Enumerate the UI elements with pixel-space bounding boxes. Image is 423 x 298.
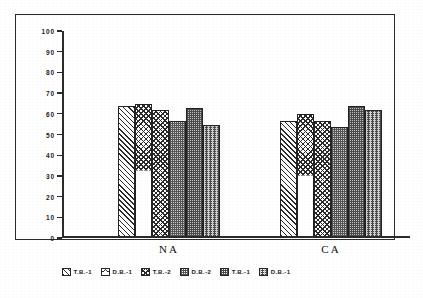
bar-ca-tb-1-0 bbox=[280, 121, 297, 237]
x-axis-line bbox=[62, 236, 410, 238]
y-tick-10 bbox=[57, 217, 62, 218]
legend-label-1: D.B.-1 bbox=[112, 269, 132, 275]
legend-label-5: D.B.-1 bbox=[271, 269, 291, 275]
legend-swatch-4 bbox=[220, 268, 229, 276]
bar-na-tb-2-2 bbox=[152, 110, 169, 236]
legend-swatch-2 bbox=[141, 268, 150, 276]
legend-item-3: D.B.-2 bbox=[180, 268, 211, 276]
y-tick-label-100: 100 bbox=[41, 28, 55, 35]
bar-na-db-2-3 bbox=[169, 121, 186, 237]
legend-swatch-5 bbox=[259, 268, 268, 276]
legend-swatch-3 bbox=[180, 268, 189, 276]
bar-ca-db-2-3 bbox=[331, 127, 348, 237]
y-tick-label-60: 60 bbox=[46, 110, 55, 117]
y-tick-label-40: 40 bbox=[46, 152, 55, 159]
legend-item-0: T.B.-1 bbox=[62, 268, 92, 276]
y-tick-label-30: 30 bbox=[46, 172, 55, 179]
bar-ca-tb-2-2 bbox=[314, 121, 331, 237]
legend-item-2: T.B.-2 bbox=[141, 268, 171, 276]
bar-ca-db-1-1 bbox=[297, 114, 314, 236]
y-tick-30 bbox=[57, 175, 62, 176]
y-tick-50 bbox=[57, 134, 62, 135]
y-tick-label-0: 0 bbox=[50, 235, 55, 242]
y-tick-80 bbox=[57, 72, 62, 73]
y-tick-90 bbox=[57, 51, 62, 52]
chart-legend: T.B.-1D.B.-1T.B.-2D.B.-2T.B.-1D.B.-1 bbox=[62, 268, 290, 276]
legend-item-4: T.B.-1 bbox=[220, 268, 250, 276]
legend-swatch-1 bbox=[101, 268, 110, 276]
y-tick-label-10: 10 bbox=[46, 214, 55, 221]
category-label-na: NA bbox=[118, 243, 220, 255]
y-tick-40 bbox=[57, 155, 62, 156]
legend-label-4: T.B.-1 bbox=[232, 269, 250, 275]
plot-area: 0102030405060708090100 NACA bbox=[62, 31, 410, 238]
bar-ca-db-1-5 bbox=[365, 110, 382, 236]
bar-na-tb-1-0 bbox=[118, 106, 135, 236]
bar-na-db-1-1 bbox=[135, 104, 152, 236]
bar-na-tb-1-4 bbox=[186, 108, 203, 236]
bar-group-na: NA bbox=[118, 104, 220, 236]
bar-na-db-1-5 bbox=[203, 125, 220, 237]
bar-group-ca: CA bbox=[280, 106, 382, 236]
y-tick-label-50: 50 bbox=[46, 131, 55, 138]
category-label-ca: CA bbox=[280, 243, 382, 255]
y-tick-label-90: 90 bbox=[46, 48, 55, 55]
y-tick-100 bbox=[57, 30, 62, 31]
legend-label-0: T.B.-1 bbox=[74, 269, 92, 275]
legend-swatch-0 bbox=[62, 268, 71, 276]
y-tick-60 bbox=[57, 113, 62, 114]
chart-frame: 0102030405060708090100 NACA bbox=[15, 14, 395, 240]
y-tick-20 bbox=[57, 196, 62, 197]
legend-label-3: D.B.-2 bbox=[192, 269, 212, 275]
legend-label-2: T.B.-2 bbox=[153, 269, 171, 275]
y-axis-line bbox=[62, 31, 64, 238]
y-tick-label-20: 20 bbox=[46, 193, 55, 200]
y-tick-label-80: 80 bbox=[46, 69, 55, 76]
bar-ca-tb-1-4 bbox=[348, 106, 365, 236]
y-tick-0 bbox=[57, 237, 62, 238]
y-tick-70 bbox=[57, 92, 62, 93]
y-tick-label-70: 70 bbox=[46, 90, 55, 97]
legend-item-1: D.B.-1 bbox=[101, 268, 132, 276]
legend-item-5: D.B.-1 bbox=[259, 268, 290, 276]
